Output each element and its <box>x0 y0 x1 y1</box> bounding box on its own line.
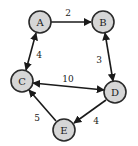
edge-weight-a-c: 4 <box>36 50 42 60</box>
edge-weight-e-c: 5 <box>34 113 40 123</box>
edge-weight-b-d: 3 <box>96 55 102 65</box>
node-e: E <box>53 119 75 141</box>
edges <box>26 22 113 123</box>
node-c: C <box>11 70 33 92</box>
svg-text:E: E <box>60 125 67 136</box>
edge-weight-c-d: 10 <box>62 74 74 84</box>
graph-diagram: 2 4 3 10 4 5 A B C D E <box>0 0 138 146</box>
svg-text:B: B <box>99 17 106 28</box>
node-a: A <box>29 11 51 33</box>
edge-weight-d-e: 4 <box>93 116 99 126</box>
svg-text:A: A <box>35 17 44 28</box>
svg-text:C: C <box>18 76 26 87</box>
edge-b-d <box>105 33 113 81</box>
edge-e-c <box>29 90 56 121</box>
edge-c-d <box>33 83 104 90</box>
svg-text:D: D <box>111 87 119 98</box>
node-b: B <box>92 11 114 33</box>
edge-weight-a-b: 2 <box>65 8 71 18</box>
edge-a-c <box>26 33 36 70</box>
edge-d-e <box>74 100 106 123</box>
node-d: D <box>104 81 126 103</box>
